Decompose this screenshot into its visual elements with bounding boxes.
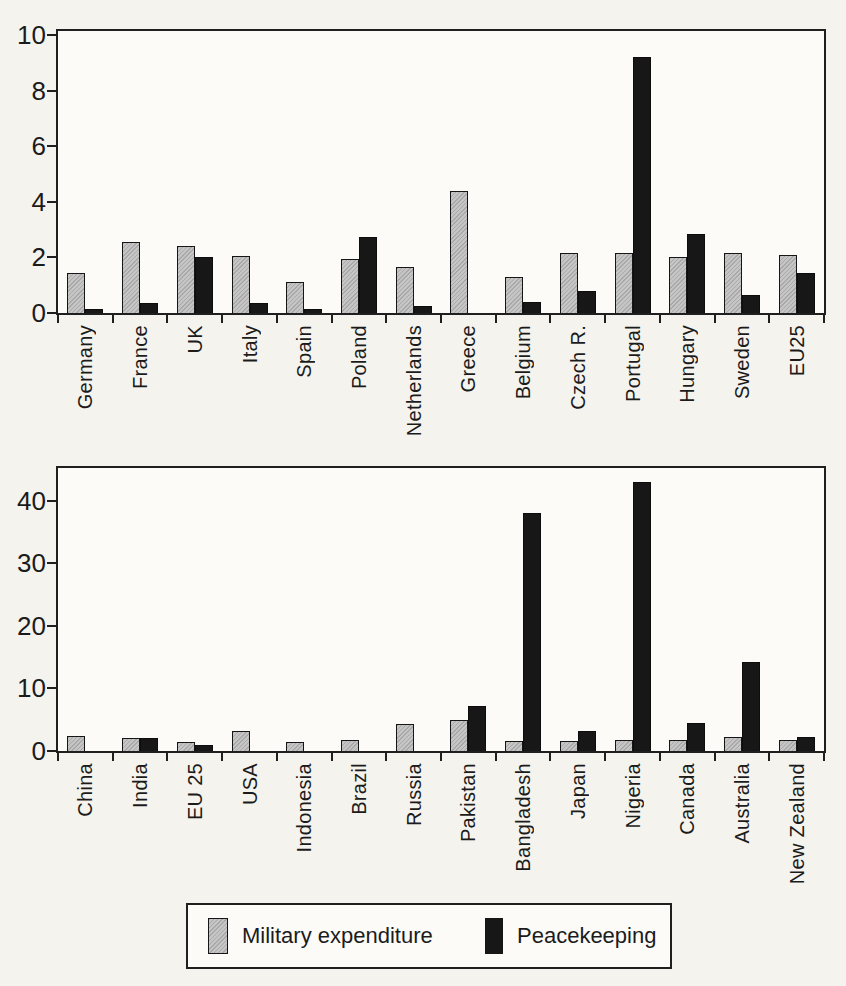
x-tick-mark — [112, 753, 114, 761]
x-tick-mark — [112, 315, 114, 323]
military-expenditure-swatch — [208, 918, 228, 954]
bar-peacekeeping — [797, 737, 815, 751]
y-tick-label: 8 — [2, 76, 46, 106]
peacekeeping-swatch — [485, 918, 503, 954]
bar-peacekeeping — [578, 291, 596, 313]
x-category-label: Nigeria — [622, 763, 644, 828]
y-tick-mark — [47, 312, 56, 314]
bar-peacekeeping — [250, 303, 268, 313]
bar-military-expenditure — [450, 191, 468, 313]
x-tick-mark — [823, 753, 825, 761]
x-tick-mark — [549, 753, 551, 761]
y-tick-mark — [47, 34, 56, 36]
bar-peacekeeping — [414, 306, 432, 313]
x-category-label: UK — [184, 325, 206, 353]
x-tick-mark — [659, 753, 661, 761]
bar-peacekeeping — [195, 257, 213, 313]
legend-item-peacekeeping: Peacekeeping — [485, 905, 656, 967]
x-category-label: Belgium — [512, 325, 534, 399]
bar-peacekeeping — [140, 738, 158, 751]
x-tick-mark — [549, 315, 551, 323]
bar-military-expenditure — [67, 736, 85, 751]
bar-peacekeeping — [742, 662, 760, 751]
x-tick-mark — [221, 753, 223, 761]
bar-military-expenditure — [505, 277, 523, 313]
y-tick-label: 6 — [2, 131, 46, 161]
x-category-label: EU 25 — [184, 763, 206, 820]
y-tick-mark — [47, 145, 56, 147]
bar-military-expenditure — [450, 720, 468, 751]
x-category-label: Russia — [403, 763, 425, 826]
x-category-label: Poland — [348, 325, 370, 389]
bar-military-expenditure — [724, 253, 742, 313]
x-tick-mark — [166, 753, 168, 761]
x-category-label: Indonesia — [293, 763, 315, 852]
x-tick-mark — [57, 315, 59, 323]
bar-peacekeeping — [687, 723, 705, 751]
bar-military-expenditure — [67, 273, 85, 313]
x-category-label: EU25 — [786, 325, 808, 376]
x-tick-mark — [331, 753, 333, 761]
y-tick-mark — [47, 500, 56, 502]
y-tick-label: 30 — [2, 548, 46, 578]
bar-military-expenditure — [396, 267, 414, 313]
y-tick-mark — [47, 687, 56, 689]
bar-peacekeeping — [523, 302, 541, 313]
x-tick-mark — [440, 315, 442, 323]
bar-peacekeeping — [633, 57, 651, 313]
bar-peacekeeping — [468, 706, 486, 751]
bar-military-expenditure — [177, 246, 195, 313]
bar-military-expenditure — [724, 737, 742, 751]
bar-peacekeeping — [797, 273, 815, 313]
y-tick-label: 10 — [2, 20, 46, 50]
bar-peacekeeping — [85, 309, 103, 313]
bar-military-expenditure — [779, 255, 797, 313]
x-category-label: New Zealand — [786, 763, 808, 884]
y-tick-label: 20 — [2, 611, 46, 641]
y-tick-label: 2 — [2, 242, 46, 272]
x-tick-mark — [166, 315, 168, 323]
x-tick-mark — [714, 315, 716, 323]
x-category-label: USA — [239, 763, 261, 805]
x-tick-mark — [714, 753, 716, 761]
legend-box: Military expenditure Peacekeeping — [186, 903, 672, 969]
x-category-label: Brazil — [348, 763, 370, 815]
legend-label-military-expenditure: Military expenditure — [242, 923, 433, 949]
y-tick-mark — [47, 90, 56, 92]
y-tick-mark — [47, 201, 56, 203]
bar-military-expenditure — [669, 257, 687, 313]
bar-peacekeeping — [742, 295, 760, 313]
x-tick-mark — [385, 315, 387, 323]
x-category-label: India — [129, 763, 151, 808]
bar-peacekeeping — [578, 731, 596, 751]
bar-military-expenditure — [560, 253, 578, 313]
y-tick-label: 10 — [2, 673, 46, 703]
x-tick-mark — [57, 753, 59, 761]
x-tick-mark — [331, 315, 333, 323]
x-tick-mark — [659, 315, 661, 323]
x-category-label: Japan — [567, 763, 589, 819]
x-category-label: Sweden — [731, 325, 753, 399]
bar-military-expenditure — [615, 740, 633, 751]
x-category-label: Germany — [74, 325, 96, 409]
bar-military-expenditure — [122, 738, 140, 751]
y-tick-label: 40 — [2, 486, 46, 516]
y-tick-mark — [47, 562, 56, 564]
bar-military-expenditure — [232, 731, 250, 751]
plot-area — [56, 29, 826, 315]
bar-peacekeeping — [359, 237, 377, 313]
y-tick-mark — [47, 750, 56, 752]
x-category-label: Hungary — [676, 325, 698, 403]
y-tick-mark — [47, 256, 56, 258]
bar-peacekeeping — [687, 234, 705, 313]
bar-peacekeeping — [633, 482, 651, 751]
y-tick-mark — [47, 625, 56, 627]
bar-military-expenditure — [505, 741, 523, 751]
bar-military-expenditure — [341, 259, 359, 313]
x-category-label: France — [129, 325, 151, 389]
x-category-label: China — [74, 763, 96, 817]
bar-military-expenditure — [560, 741, 578, 751]
x-tick-mark — [495, 315, 497, 323]
x-tick-mark — [604, 753, 606, 761]
bar-military-expenditure — [122, 242, 140, 313]
